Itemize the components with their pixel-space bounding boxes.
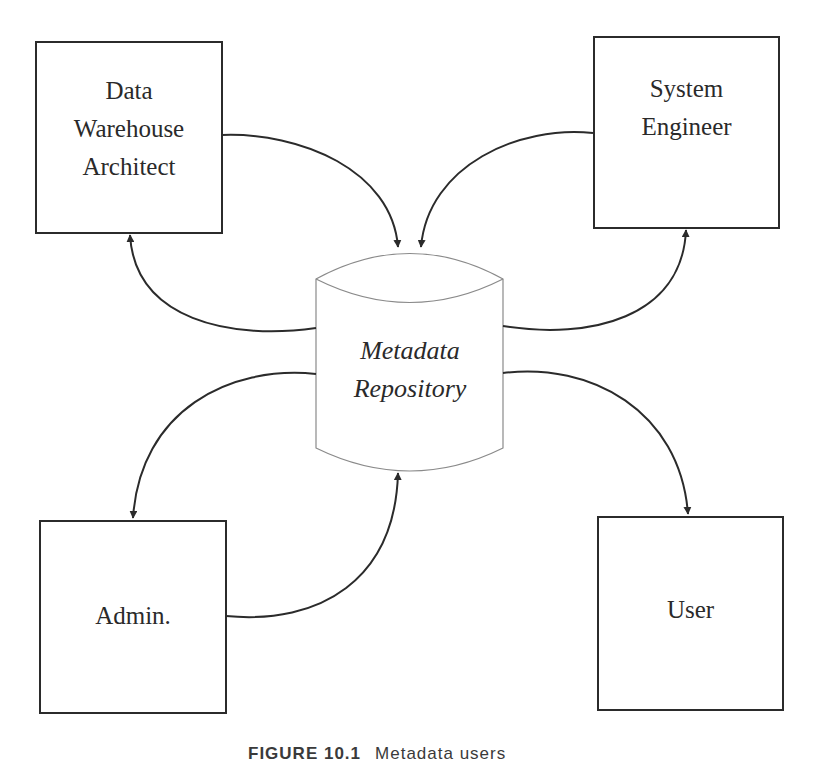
- node-admin: Admin.: [39, 520, 227, 714]
- node-label: Admin.: [95, 597, 171, 635]
- metadata-repository-label: Metadata Repository: [316, 332, 504, 408]
- figure-caption: FIGURE 10.1Metadata users: [248, 744, 648, 763]
- arrow-repository-to-architect: [130, 235, 316, 331]
- node-user: User: [597, 516, 784, 711]
- node-label: System Engineer: [641, 70, 731, 146]
- node-data-warehouse-architect: Data Warehouse Architect: [35, 41, 223, 234]
- node-label: User: [667, 591, 714, 629]
- figure-number: FIGURE 10.1: [248, 744, 361, 763]
- arrow-admin-to-repository: [226, 473, 398, 617]
- figure-title: Metadata users: [375, 744, 506, 763]
- arrow-repository-to-engineer: [503, 230, 686, 330]
- arrow-architect-to-repository: [222, 135, 398, 247]
- arrow-repository-to-admin: [133, 373, 316, 518]
- arrow-repository-to-user: [503, 371, 688, 514]
- arrow-engineer-to-repository: [421, 132, 593, 247]
- node-system-engineer: System Engineer: [593, 36, 780, 229]
- node-label: Data Warehouse Architect: [74, 72, 184, 186]
